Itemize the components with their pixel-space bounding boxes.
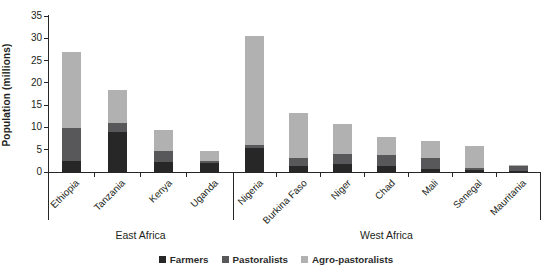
bar-segment-chad bbox=[377, 137, 396, 155]
bar-segment-niger bbox=[333, 154, 352, 163]
bar-segment-chad bbox=[377, 166, 396, 172]
bar-segment-tanzania bbox=[108, 123, 127, 132]
group-label-east-africa: East Africa bbox=[48, 229, 233, 243]
x-tick-mark bbox=[364, 173, 365, 177]
bar-segment-kenya bbox=[154, 151, 173, 162]
y-tick-mark bbox=[44, 16, 48, 17]
bar-segment-nigeria bbox=[245, 145, 264, 149]
pastoralists-swatch-icon bbox=[222, 256, 229, 263]
bar-segment-ethiopia bbox=[62, 52, 81, 128]
bar-segment-burkina-faso bbox=[289, 158, 308, 166]
farmers-swatch-icon bbox=[159, 256, 166, 263]
bar-segment-burkina-faso bbox=[289, 166, 308, 172]
y-tick-label: 15 bbox=[20, 100, 42, 110]
y-tick-mark bbox=[44, 82, 48, 83]
bar-segment-mali bbox=[421, 169, 440, 172]
bar-segment-mauritania bbox=[509, 165, 528, 166]
legend: Farmers Pastoralists Agro-pastoralists bbox=[0, 251, 552, 267]
x-tick-mark bbox=[452, 173, 453, 177]
agro-pastoralists-swatch-icon bbox=[301, 256, 308, 263]
legend-item-pastoralists: Pastoralists bbox=[222, 254, 289, 265]
x-tick-mark bbox=[408, 173, 409, 177]
y-tick-label: 5 bbox=[20, 145, 42, 155]
bar-segment-ethiopia bbox=[62, 161, 81, 172]
bar-segment-tanzania bbox=[108, 132, 127, 172]
y-axis-title: Population (millions) bbox=[1, 25, 15, 165]
bar-segment-kenya bbox=[154, 130, 173, 151]
bar-segment-nigeria bbox=[245, 36, 264, 145]
y-tick-label: 0 bbox=[20, 167, 42, 177]
bar-segment-tanzania bbox=[108, 90, 127, 123]
x-tick-mark bbox=[94, 173, 95, 177]
y-tick-mark bbox=[44, 38, 48, 39]
group-divider-line bbox=[48, 174, 49, 220]
bar-segment-mauritania bbox=[509, 171, 528, 172]
x-tick-mark bbox=[320, 173, 321, 177]
x-axis-line bbox=[48, 172, 541, 173]
bar-segment-burkina-faso bbox=[289, 113, 308, 158]
y-tick-label: 20 bbox=[20, 78, 42, 88]
x-tick-mark bbox=[496, 173, 497, 177]
legend-label-pastoralists: Pastoralists bbox=[233, 254, 289, 265]
y-tick-label: 10 bbox=[20, 122, 42, 132]
legend-item-farmers: Farmers bbox=[159, 254, 209, 265]
y-axis-line bbox=[48, 15, 49, 173]
bar-segment-senegal bbox=[465, 146, 484, 167]
y-tick-mark bbox=[44, 127, 48, 128]
y-tick-label: 30 bbox=[20, 33, 42, 43]
group-divider-line bbox=[540, 174, 541, 220]
bar-segment-niger bbox=[333, 164, 352, 172]
bar-segment-nigeria bbox=[245, 148, 264, 172]
x-tick-mark bbox=[276, 173, 277, 177]
bar-segment-uganda bbox=[200, 161, 219, 163]
group-label-west-africa: West Africa bbox=[233, 229, 540, 243]
bar-segment-mauritania bbox=[509, 166, 528, 170]
y-tick-mark bbox=[44, 149, 48, 150]
bar-segment-uganda bbox=[200, 151, 219, 161]
bar-segment-chad bbox=[377, 155, 396, 166]
x-tick-mark bbox=[186, 173, 187, 177]
bar-segment-niger bbox=[333, 124, 352, 154]
bar-segment-mali bbox=[421, 141, 440, 158]
bar-segment-senegal bbox=[465, 168, 484, 170]
y-tick-label: 35 bbox=[20, 11, 42, 21]
legend-label-agro-pastoralists: Agro-pastoralists bbox=[312, 254, 393, 265]
legend-item-agro-pastoralists: Agro-pastoralists bbox=[301, 254, 393, 265]
y-tick-label: 25 bbox=[20, 56, 42, 66]
y-tick-mark bbox=[44, 105, 48, 106]
bar-segment-uganda bbox=[200, 163, 219, 172]
bar-segment-senegal bbox=[465, 170, 484, 172]
population-stacked-bar-chart: Population (millions) 05101520253035Ethi… bbox=[0, 0, 552, 272]
y-tick-mark bbox=[44, 60, 48, 61]
group-divider-line bbox=[233, 174, 234, 220]
x-tick-mark bbox=[140, 173, 141, 177]
bar-segment-ethiopia bbox=[62, 128, 81, 161]
legend-label-farmers: Farmers bbox=[170, 254, 209, 265]
bar-segment-mali bbox=[421, 158, 440, 169]
bar-segment-kenya bbox=[154, 162, 173, 172]
